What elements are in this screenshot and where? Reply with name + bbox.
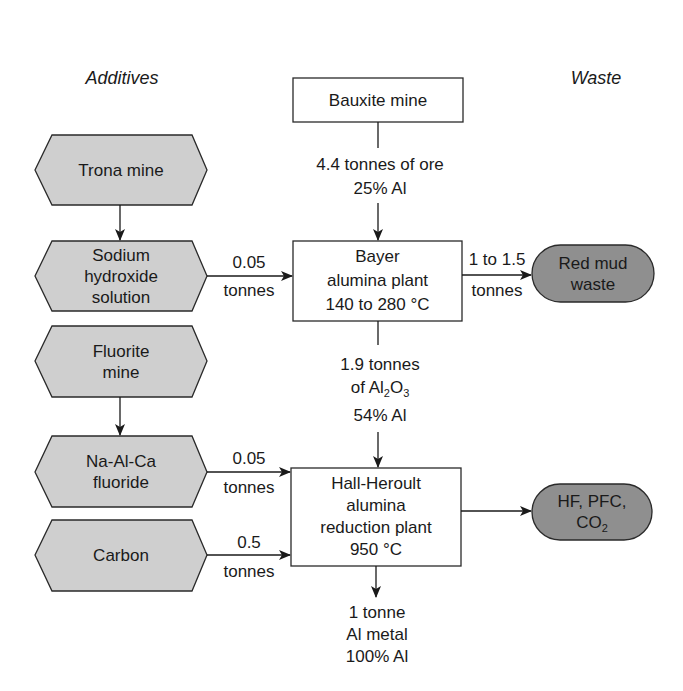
- aluminum-production-flow-diagram: Additives Waste Trona mine Sodium hydrox…: [0, 0, 683, 691]
- alumina-grade-label: 54% Al: [354, 405, 407, 426]
- alumina-formula-label: of Al2O3: [351, 377, 410, 398]
- additives-heading: Additives: [85, 68, 158, 89]
- carbon-flow-amount: 0.5: [237, 532, 261, 553]
- output-quantity-label: 1 tonne: [349, 602, 406, 623]
- fluoride-flow-amount: 0.05: [232, 448, 265, 469]
- fluoride-flow-unit: tonnes: [223, 477, 274, 498]
- alumina-quantity-label: 1.9 tonnes: [340, 354, 419, 375]
- na-al-ca-fluoride-label: Na-Al-Ca fluoride: [35, 436, 207, 507]
- co2-text: CO2: [576, 512, 608, 533]
- trona-mine-label: Trona mine: [35, 135, 207, 205]
- sodium-hydroxide-label: Sodium hydroxide solution: [35, 241, 207, 311]
- ore-quantity-label: 4.4 tonnes of ore: [316, 154, 444, 175]
- gas-emissions-label: HF, PFC, CO2: [532, 484, 652, 540]
- redmud-flow-amount: 1 to 1.5: [469, 249, 526, 270]
- output-product-label: Al metal: [346, 624, 407, 645]
- ore-grade-label: 25% Al: [354, 178, 407, 199]
- bayer-plant-label: Bayer alumina plant 140 to 280 °C: [293, 241, 462, 321]
- hall-heroult-plant-label: Hall-Heroult alumina reduction plant 950…: [291, 468, 461, 566]
- waste-heading: Waste: [571, 68, 622, 89]
- bauxite-mine-label: Bauxite mine: [293, 78, 463, 122]
- red-mud-waste-label: Red mud waste: [532, 245, 654, 302]
- output-grade-label: 100% Al: [346, 646, 408, 667]
- sodium-flow-unit: tonnes: [223, 280, 274, 301]
- carbon-flow-unit: tonnes: [223, 561, 274, 582]
- redmud-flow-unit: tonnes: [471, 280, 522, 301]
- sodium-flow-amount: 0.05: [232, 252, 265, 273]
- carbon-label: Carbon: [35, 520, 207, 591]
- fluorite-mine-label: Fluorite mine: [35, 326, 207, 397]
